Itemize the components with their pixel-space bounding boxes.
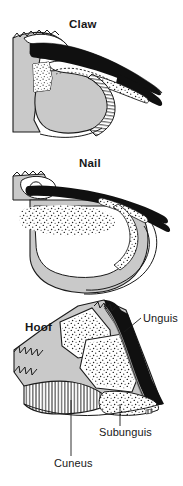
hoof-wall-tip-mark (146, 409, 152, 414)
panel-label-claw: Claw (69, 19, 97, 31)
claw-diagram (13, 30, 162, 137)
nail-diagram (13, 171, 170, 294)
callout-label-unguis: Unguis (143, 313, 178, 324)
callout-label-cuneus: Cuneus (54, 458, 93, 469)
panel-label-nail: Nail (79, 158, 101, 170)
claw-matrix-stipple (33, 62, 52, 92)
anatomy-illustration (0, 0, 183, 486)
comparative-anatomy-figure: Claw Nail Hoof Unguis Subunguis Cuneus (0, 0, 183, 486)
callout-label-subunguis: Subunguis (99, 427, 152, 438)
panel-label-hoof: Hoof (25, 322, 52, 334)
